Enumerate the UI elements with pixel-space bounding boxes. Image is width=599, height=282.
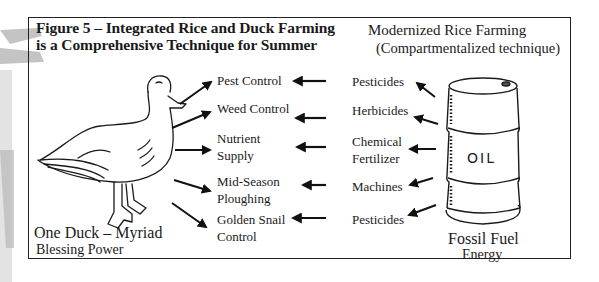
input-label: Chemical (352, 133, 402, 150)
benefit-label-2: Control (217, 228, 285, 245)
barrel-caption-line1: Fossil Fuel (448, 231, 519, 247)
barrel-caption-line2: Energy (462, 248, 502, 262)
arrow-to-weed-control (172, 112, 210, 128)
input-label: Herbicides (352, 102, 408, 119)
benefit-mid-season-ploughing: Mid-Season Ploughing (217, 173, 280, 207)
input-label: Pesticides (352, 73, 404, 90)
benefit-label: Pest Control (217, 72, 282, 89)
arrow-barrel-to-pesticides-2 (409, 205, 436, 215)
duck-caption-line2: Blessing Power (36, 243, 124, 257)
input-label: Pesticides (352, 211, 404, 228)
benefit-nutrient-supply: Nutrient Supply (217, 130, 260, 164)
middle-arrows (293, 81, 326, 218)
arrow-to-snail-control (172, 203, 206, 227)
input-chemical-fertilizer: Chemical Fertilizer (352, 133, 402, 167)
benefit-label: Mid-Season (217, 173, 280, 190)
duck-icon (38, 76, 186, 228)
benefit-weed-control: Weed Control (217, 100, 289, 117)
input-machines: Machines (352, 178, 403, 195)
arrow-to-ploughing (174, 180, 210, 191)
arrow-barrel-to-machines (410, 178, 433, 185)
benefit-label-2: Supply (217, 147, 260, 164)
benefit-golden-snail-control: Golden Snail Control (217, 211, 285, 245)
input-label-2: Fertilizer (352, 150, 402, 167)
arrow-barrel-to-herbicides (415, 117, 438, 124)
benefit-label-2: Ploughing (217, 190, 280, 207)
input-herbicides: Herbicides (352, 102, 408, 119)
benefit-label: Weed Control (217, 100, 289, 117)
input-pesticides: Pesticides (352, 73, 404, 90)
barrel-label: OIL (467, 150, 496, 166)
input-label: Machines (352, 178, 403, 195)
barrel-arrows (409, 83, 438, 215)
input-pesticides-2: Pesticides (352, 211, 404, 228)
benefit-pest-control: Pest Control (217, 72, 282, 89)
duck-arrows (172, 82, 211, 227)
arrow-barrel-to-pesticides (417, 83, 435, 97)
benefit-label: Nutrient (217, 130, 260, 147)
duck-caption-line1: One Duck – Myriad (34, 225, 162, 241)
arrow-to-pest-control (180, 82, 211, 104)
benefit-label: Golden Snail (217, 211, 285, 228)
